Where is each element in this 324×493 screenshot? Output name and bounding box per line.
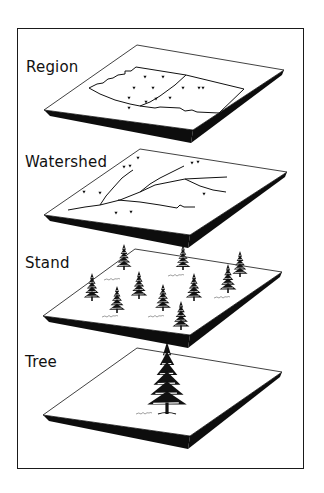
- trunk: [193, 297, 195, 301]
- trunk: [116, 309, 118, 313]
- trunk: [227, 288, 229, 293]
- conifer-tree-icon: [232, 251, 247, 277]
- trunk: [182, 266, 184, 270]
- trunk: [162, 307, 164, 311]
- label-tree: Tree: [25, 353, 57, 371]
- tree-layer: [43, 342, 282, 449]
- trunk: [138, 295, 140, 299]
- label-stand: Stand: [25, 254, 70, 272]
- trunk: [180, 325, 182, 330]
- trunk: [239, 273, 241, 277]
- label-watershed: Watershed: [25, 153, 107, 171]
- trunk: [123, 266, 125, 270]
- label-region: Region: [26, 58, 79, 76]
- region-layer: [44, 45, 284, 143]
- stand-layer: [43, 244, 282, 348]
- trunk: [91, 297, 93, 301]
